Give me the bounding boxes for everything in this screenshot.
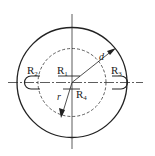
label-r2: R2 [27, 64, 38, 78]
label-r: r [57, 91, 61, 102]
d-leader [72, 50, 113, 83]
label-d: d [99, 51, 105, 62]
circular-part-drawing: R1 R2 R3 R4 d r [0, 0, 155, 156]
label-r1: R1 [57, 64, 68, 78]
label-r4: R4 [76, 88, 87, 102]
label-r3: R3 [111, 64, 122, 78]
